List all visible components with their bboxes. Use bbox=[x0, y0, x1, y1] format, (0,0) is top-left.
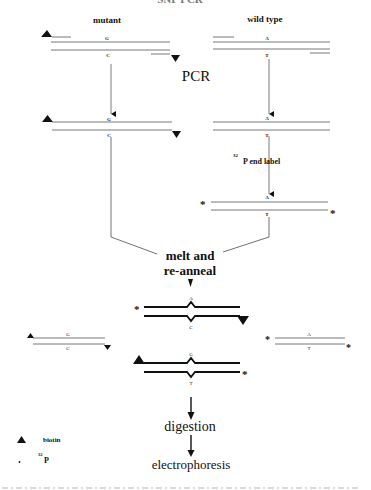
base-label: G bbox=[189, 352, 193, 357]
base-label: C bbox=[107, 133, 111, 138]
base-label: T bbox=[307, 346, 310, 351]
biotin-legend-triangle-icon bbox=[17, 436, 26, 443]
base-label: G bbox=[66, 332, 70, 337]
melt-arrowhead bbox=[188, 279, 193, 287]
base-label: T bbox=[189, 381, 192, 386]
base-label: G bbox=[105, 36, 109, 41]
biotin-triangle-down-icon bbox=[237, 316, 249, 325]
p32-legend-dot-icon bbox=[19, 461, 21, 463]
asterisk-icon: * bbox=[346, 342, 351, 353]
mutant-homoduplex: G C bbox=[27, 332, 111, 351]
top-title-fragment: SNP PCR bbox=[157, 0, 204, 5]
wildtype-duplex-initial: A T bbox=[213, 36, 330, 58]
mutant-duplex-pcr: G C bbox=[42, 115, 181, 138]
biotin-triangle-down-icon bbox=[104, 345, 111, 350]
biotin-triangle-icon bbox=[27, 333, 34, 338]
base-label: A bbox=[189, 296, 193, 301]
base-label: A bbox=[265, 116, 269, 121]
base-label: C bbox=[66, 346, 70, 351]
biotin-triangle-icon bbox=[133, 355, 145, 364]
base-label: A bbox=[265, 36, 269, 41]
biotin-triangle-icon bbox=[42, 115, 53, 122]
asterisk-icon: * bbox=[330, 207, 336, 219]
biotin-triangle-icon bbox=[41, 30, 52, 37]
asterisk-icon: * bbox=[134, 303, 140, 315]
snp-detection-diagram: SNP PCR mutant wild type G C A T PCR G C bbox=[0, 0, 371, 490]
melt-label-line2: re-anneal bbox=[164, 263, 217, 278]
base-label: T bbox=[265, 53, 269, 58]
base-label: A bbox=[307, 332, 311, 337]
biotin-triangle-down-icon bbox=[171, 55, 180, 62]
digestion-label: digestion bbox=[164, 419, 215, 434]
heteroduplex-1: * A C bbox=[134, 296, 249, 330]
base-label: A bbox=[265, 195, 269, 200]
base-label: T bbox=[265, 212, 269, 217]
mutant-label: mutant bbox=[93, 15, 121, 25]
wildtype-homoduplex: * * A T bbox=[265, 332, 351, 353]
biotin-triangle-down-icon bbox=[172, 131, 181, 138]
merge-line-left bbox=[111, 137, 157, 254]
base-label: C bbox=[106, 53, 110, 58]
asterisk-icon: * bbox=[200, 198, 206, 210]
end-label-superscript: 32 bbox=[233, 153, 239, 158]
end-label-text: P end label bbox=[243, 157, 281, 166]
base-label: C bbox=[189, 325, 193, 330]
wildtype-duplex-labeled: * * A T bbox=[200, 195, 336, 219]
merge-line-right bbox=[223, 217, 269, 252]
legend-p32-label: P bbox=[44, 456, 49, 465]
wildtype-duplex-pcr: A T bbox=[213, 116, 330, 138]
legend: biotin 32 P bbox=[17, 436, 61, 465]
legend-p32-superscript: 32 bbox=[38, 452, 43, 457]
base-label: G bbox=[107, 117, 111, 122]
mutant-duplex-initial: G C bbox=[41, 30, 180, 62]
electrophoresis-label: electrophoresis bbox=[152, 457, 231, 472]
wildtype-label: wild type bbox=[247, 14, 282, 24]
electrophoresis-arrowhead bbox=[188, 450, 195, 457]
asterisk-icon: * bbox=[265, 334, 270, 345]
pcr-label: PCR bbox=[182, 68, 210, 84]
asterisk-icon: * bbox=[242, 368, 248, 380]
heteroduplex-2: * G T bbox=[133, 352, 248, 386]
legend-biotin-label: biotin bbox=[43, 436, 61, 444]
melt-label-line1: melt and bbox=[166, 248, 216, 263]
